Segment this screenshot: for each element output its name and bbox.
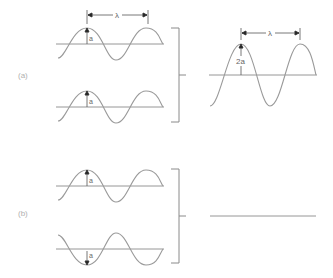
arrow-right-icon <box>295 31 299 35</box>
amplitude-label: a <box>89 252 93 259</box>
wavelength-label: λ <box>268 29 272 38</box>
part-label-b: (b) <box>18 209 28 218</box>
wave-b2: a <box>56 233 164 265</box>
amplitude-label: 2a <box>236 57 245 66</box>
arrow-left-icon <box>242 31 246 35</box>
wave-a1: a λ <box>56 10 164 60</box>
bracket <box>171 28 179 122</box>
arrow-right-icon <box>143 13 147 17</box>
wave-interference-diagram: (a) a λ a 2a <box>0 0 333 278</box>
bracket-b <box>171 169 186 263</box>
arrow-left-icon <box>88 13 92 17</box>
wave-a2: a <box>56 91 164 123</box>
bracket-a <box>171 28 186 122</box>
result-wave-a: 2a λ <box>209 28 317 106</box>
wave-b1: a <box>56 170 164 202</box>
amplitude-label: a <box>89 98 93 105</box>
bracket <box>171 169 179 263</box>
part-label-a: (a) <box>18 71 28 80</box>
amplitude-label: a <box>89 35 93 42</box>
wavelength-label: λ <box>115 11 119 20</box>
amplitude-label: a <box>89 177 93 184</box>
